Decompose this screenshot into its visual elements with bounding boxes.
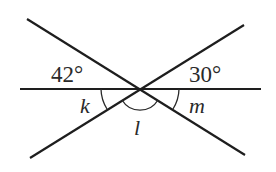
angle-label-k: k [80,93,91,118]
angle-label-m: m [189,93,205,118]
angle-k-arc [101,89,107,109]
angle-l-arc [122,100,158,110]
angle-m-arc [173,89,179,109]
angle-label-l: l [134,115,140,140]
angle-diagram: 42° 30° k l m [0,0,276,172]
angle-label-30: 30° [189,62,221,87]
angle-label-42: 42° [51,62,83,87]
